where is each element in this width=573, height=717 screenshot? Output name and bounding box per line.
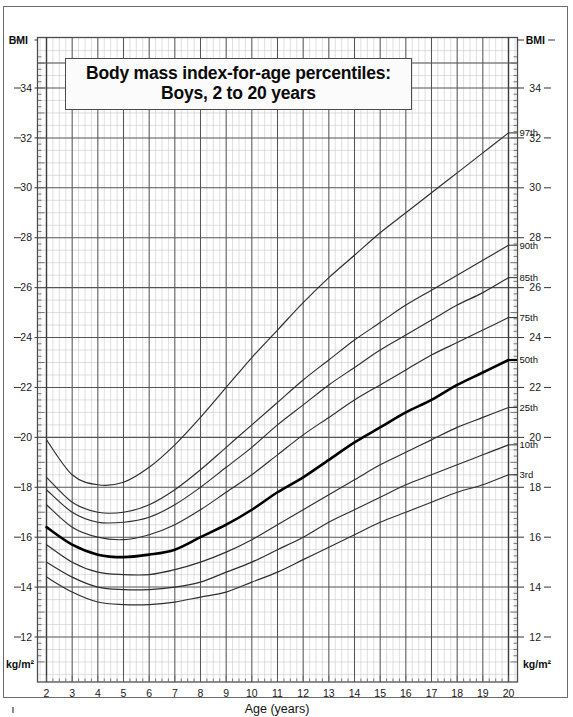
y-tick-label-right-30: 30 [529,181,541,193]
y-tick-label-left-30: 30 [20,181,32,193]
y-axis-tick-labels: 1212141416161818202022222424262628283030… [14,82,551,643]
x-axis-tick-labels: 234567891011121314151617181920 [44,687,515,699]
x-tick-label-13: 13 [323,687,335,699]
percentile-label-90th: 90th [520,240,539,251]
chart-title-line-1: Body mass index-for-age percentiles: [86,64,391,84]
y-tick-label-left-32: 32 [20,132,32,144]
x-tick-label-6: 6 [146,687,152,699]
x-tick-label-18: 18 [451,687,463,699]
percentile-label-85th: 85th [520,272,539,283]
percentile-label-25th: 25th [520,402,539,413]
chart-title-box: Body mass index-for-age percentiles: Boy… [65,58,412,110]
x-axis-title: Age (years) [245,702,310,716]
chart-title-line-2: Boys, 2 to 20 years [161,84,316,104]
y-tick-label-right-14: 14 [529,581,541,593]
y-tick-label-right-22: 22 [529,381,541,393]
x-axis-title-text: Age (years) [245,702,310,716]
y-axis-unit-bottom-right: kg/m² [523,658,552,670]
y-tick-label-left-16: 16 [20,531,32,543]
x-tick-label-9: 9 [223,687,229,699]
x-tick-label-14: 14 [349,687,361,699]
percentile-label-97th: 97th [520,127,539,138]
x-tick-label-10: 10 [246,687,258,699]
y-tick-label-left-22: 22 [20,381,32,393]
y-tick-label-left-26: 26 [20,281,32,293]
x-tick-label-5: 5 [121,687,127,699]
x-tick-label-3: 3 [69,687,75,699]
x-tick-label-17: 17 [426,687,438,699]
y-tick-label-right-24: 24 [529,331,541,343]
y-tick-label-left-14: 14 [20,581,32,593]
y-tick-label-left-12: 12 [20,631,32,643]
x-tick-label-12: 12 [297,687,309,699]
bmi-growth-chart-page: 1212141416161818202022222424262628283030… [0,0,573,717]
x-tick-label-16: 16 [400,687,412,699]
x-tick-label-4: 4 [95,687,101,699]
x-tick-label-19: 19 [477,687,489,699]
x-tick-label-2: 2 [44,687,50,699]
y-axis-unit-top-right: BMI [526,34,545,46]
x-tick-label-7: 7 [172,687,178,699]
y-tick-label-right-34: 34 [529,82,541,94]
percentile-label-50th: 50th [520,354,539,365]
percentile-label-75th: 75th [520,312,539,323]
percentile-label-3rd: 3rd [520,469,534,480]
corner-registration-mark [12,707,14,713]
y-tick-label-left-24: 24 [20,331,32,343]
y-axis-unit-bottom-left: kg/m² [6,658,35,670]
y-tick-label-left-28: 28 [20,231,32,243]
y-tick-label-right-18: 18 [529,481,541,493]
y-tick-label-right-12: 12 [529,631,541,643]
y-tick-label-right-16: 16 [529,531,541,543]
y-tick-label-left-18: 18 [20,481,32,493]
percentile-curve-labels: 97th90th85th75th50th25th10th3rd [520,127,539,480]
x-tick-label-15: 15 [374,687,386,699]
percentile-label-10th: 10th [520,439,539,450]
x-tick-label-8: 8 [198,687,204,699]
y-tick-label-left-20: 20 [20,431,32,443]
y-tick-label-left-34: 34 [20,82,32,94]
x-tick-label-11: 11 [272,687,283,699]
x-tick-label-20: 20 [503,687,515,699]
grid-major-lines [38,38,518,683]
